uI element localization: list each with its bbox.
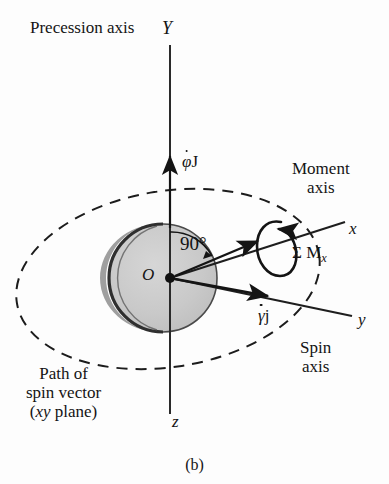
- moment-axis-label: Momentaxis: [292, 159, 350, 197]
- moment-axis-label-line2: axis: [307, 178, 334, 197]
- figure-caption: (b): [0, 456, 389, 474]
- spin-axis-label-line2: axis: [302, 357, 329, 376]
- moment-sum-subscript: x: [321, 251, 326, 265]
- axis-label-z: z: [172, 412, 179, 431]
- phi-dot-symbol: φ: [182, 152, 191, 171]
- spin-axis-label: Spinaxis: [300, 338, 331, 376]
- moment-sum-label: Σ Mx: [292, 243, 327, 266]
- J-symbol: J: [191, 152, 198, 171]
- spin-path-label-line3-rest: plane): [51, 402, 98, 421]
- axis-label-x: x: [349, 219, 357, 238]
- spin-path-label-line1: Path of: [39, 364, 88, 383]
- right-angle-label: 90°: [180, 233, 207, 254]
- spin-path-label: Path ofspin vector(xy plane): [26, 364, 101, 421]
- gyroscope-precession-figure: Precession axis Y φJ 90° O Momentaxis x …: [0, 0, 389, 484]
- origin-label: O: [142, 265, 154, 284]
- spin-path-label-line2: spin vector: [26, 383, 101, 402]
- axis-label-y: y: [358, 310, 366, 329]
- spin-path-label-line3-plane: xy: [35, 402, 50, 421]
- gamma-dot-symbol: γ: [258, 306, 265, 325]
- spin-axis-label-line1: Spin: [300, 338, 331, 357]
- sigma-M-symbol: Σ M: [292, 243, 321, 262]
- axis-label-Y: Y: [162, 18, 172, 38]
- moment-axis-label-line1: Moment: [292, 159, 350, 178]
- spin-rate-vector-label: γj: [258, 306, 269, 325]
- j-symbol: j: [265, 306, 270, 325]
- origin-dot: [165, 273, 175, 283]
- precession-rate-vector-label: φJ: [182, 152, 198, 171]
- precession-axis-label: Precession axis: [30, 18, 134, 37]
